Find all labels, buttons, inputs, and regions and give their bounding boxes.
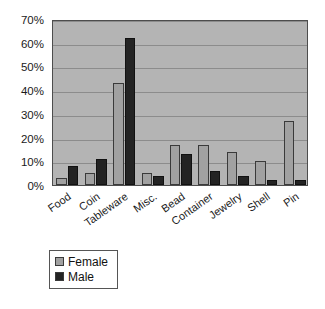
bar-chart: 0%10%20%30%40%50%60%70% FoodCoinTablewar… xyxy=(0,0,325,309)
bar-pin-female xyxy=(284,121,295,185)
bar-shell-female xyxy=(255,161,266,185)
bar-bead-female xyxy=(170,145,181,185)
legend-swatch-icon xyxy=(55,272,64,281)
plot-area xyxy=(52,20,308,186)
legend-item-label: Male xyxy=(68,270,94,284)
bar-misc-male xyxy=(153,176,164,185)
bar-group xyxy=(53,21,81,185)
legend: FemaleMale xyxy=(49,250,118,289)
bar-container-male xyxy=(210,171,221,185)
y-axis-tick-label: 10% xyxy=(21,156,44,168)
legend-swatch-icon xyxy=(55,257,64,266)
y-axis-tick-label: 40% xyxy=(21,85,44,97)
y-axis-tick-label: 30% xyxy=(21,109,44,121)
bar-group xyxy=(110,21,138,185)
legend-item-female: Female xyxy=(55,254,108,269)
bar-bead-male xyxy=(181,154,192,185)
bar-group xyxy=(281,21,309,185)
bar-food-male xyxy=(68,166,79,185)
bar-shell-male xyxy=(267,180,278,185)
bar-jewelry-female xyxy=(227,152,238,185)
bar-group xyxy=(224,21,252,185)
bar-pin-male xyxy=(295,180,306,185)
y-axis-tick-label: 70% xyxy=(21,14,44,26)
bar-group xyxy=(252,21,280,185)
x-axis-labels: FoodCoinTablewareMisc.BeadContainerJewel… xyxy=(0,188,325,246)
legend-item-male: Male xyxy=(55,269,108,284)
bar-tableware-female xyxy=(113,83,124,185)
bar-group xyxy=(167,21,195,185)
y-axis-tick-label: 50% xyxy=(21,61,44,73)
bar-coin-female xyxy=(85,173,96,185)
bars-layer xyxy=(53,21,307,185)
bar-coin-male xyxy=(96,159,107,185)
bar-misc-female xyxy=(142,173,153,185)
bar-group xyxy=(138,21,166,185)
y-axis-tick-label: 20% xyxy=(21,133,44,145)
bar-tableware-male xyxy=(125,38,136,185)
legend-item-label: Female xyxy=(68,255,108,269)
bar-food-female xyxy=(56,178,67,185)
bar-group xyxy=(81,21,109,185)
bar-container-female xyxy=(198,145,209,185)
y-axis: 0%10%20%30%40%50%60%70% xyxy=(0,14,48,192)
bar-jewelry-male xyxy=(238,176,249,185)
y-axis-tick-label: 60% xyxy=(21,38,44,50)
bar-group xyxy=(195,21,223,185)
